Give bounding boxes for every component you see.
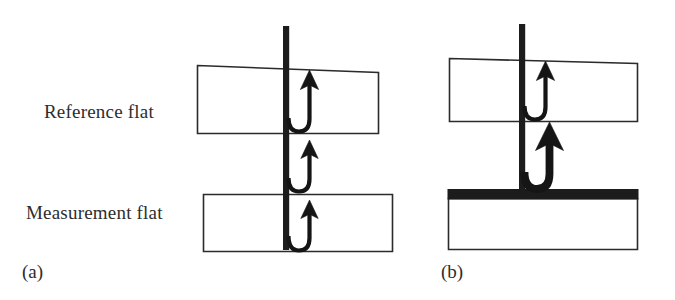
panel-b-group bbox=[448, 24, 638, 250]
panel-b-reflection-arrow-2 bbox=[525, 122, 564, 189]
panel-a-incident-beam bbox=[283, 26, 289, 250]
reference-flat-label: Reference flat bbox=[44, 102, 154, 121]
figure-canvas: Reference flat Measurement flat (a) (b) bbox=[0, 0, 675, 300]
panel-a-tag: (a) bbox=[22, 262, 43, 281]
figure-drawing bbox=[0, 0, 675, 300]
panel-a-measurement-flat-block bbox=[204, 195, 393, 252]
panel-a-group bbox=[198, 26, 393, 252]
panel-a-reflection-arrow-2 bbox=[289, 140, 319, 192]
panel-b-measurement-flat-block bbox=[449, 199, 638, 250]
panel-b-tag: (b) bbox=[441, 262, 463, 281]
measurement-flat-label: Measurement flat bbox=[26, 203, 163, 222]
